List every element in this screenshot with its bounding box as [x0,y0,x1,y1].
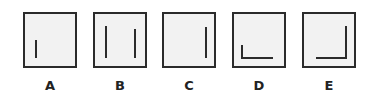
line-segment [316,57,347,59]
line-segment [241,57,273,59]
option-box-e[interactable] [302,12,356,68]
line-segment [134,29,136,58]
option-label-b: B [93,78,147,93]
option-box-c[interactable] [162,12,216,68]
option-label-c: C [162,78,216,93]
option-label-d: D [232,78,286,93]
option-box-a[interactable] [23,12,77,68]
option-box-b[interactable] [93,12,147,68]
line-segment [345,26,347,59]
option-label-a: A [23,78,77,93]
line-segment [35,40,37,58]
option-label-e: E [302,78,356,93]
line-segment [205,27,207,58]
option-box-d[interactable] [232,12,286,68]
line-segment [105,26,107,58]
